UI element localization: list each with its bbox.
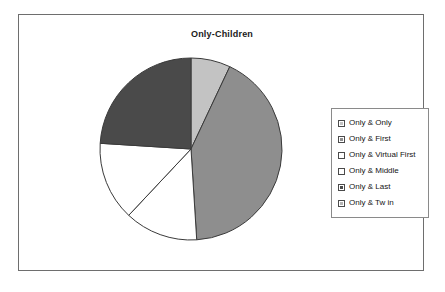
legend-swatch-icon (338, 200, 345, 207)
legend-item-label: Only & Virtual First (349, 150, 416, 160)
legend-swatch-icon (338, 168, 345, 175)
pie-svg (91, 49, 291, 249)
legend-item-label: Only & First (349, 134, 391, 144)
legend-swatch-icon (338, 152, 345, 159)
legend-item[interactable]: Only & Tw in (338, 195, 423, 211)
pie-slice[interactable] (100, 58, 191, 149)
legend-item-label: Only & Only (349, 118, 392, 128)
legend-item[interactable]: Only & Only (338, 115, 423, 131)
pie-chart (91, 49, 291, 249)
pie-slice-group (100, 58, 282, 240)
legend-item-label: Only & Middle (349, 166, 399, 176)
legend-swatch-icon (338, 136, 345, 143)
legend-swatch-icon (338, 120, 345, 127)
chart-frame: Only-Children Only & OnlyOnly & FirstOnl… (18, 14, 424, 271)
chart-legend: Only & OnlyOnly & FirstOnly & Virtual Fi… (331, 108, 429, 218)
legend-item[interactable]: Only & Last (338, 179, 423, 195)
legend-item[interactable]: Only & Middle (338, 163, 423, 179)
chart-canvas: Only-Children Only & OnlyOnly & FirstOnl… (0, 0, 445, 292)
legend-item[interactable]: Only & First (338, 131, 423, 147)
page-title: Only-Children (19, 29, 425, 39)
legend-item-label: Only & Last (349, 182, 390, 192)
legend-item[interactable]: Only & Virtual First (338, 147, 423, 163)
legend-swatch-icon (338, 184, 345, 191)
legend-item-label: Only & Tw in (349, 198, 394, 208)
